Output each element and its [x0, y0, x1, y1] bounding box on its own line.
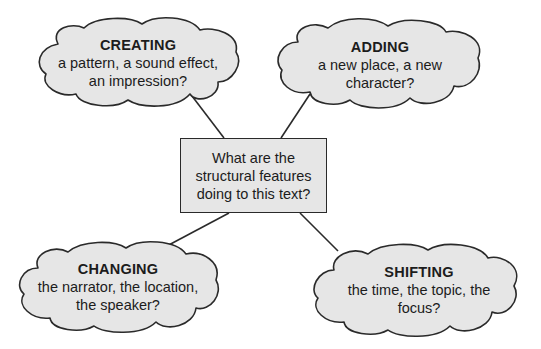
node-shifting: SHIFTING the time, the topic, the focus? — [338, 263, 500, 317]
node-adding-title: ADDING — [306, 38, 454, 56]
central-question-box: What are the structural features doing t… — [180, 138, 327, 213]
node-creating-body: a pattern, a sound effect, an impression… — [54, 54, 222, 90]
node-shifting-title: SHIFTING — [338, 263, 500, 281]
connector-shifting — [300, 213, 338, 251]
node-creating: CREATING a pattern, a sound effect, an i… — [54, 36, 222, 90]
node-changing-body: the narrator, the location, the speaker? — [36, 278, 200, 314]
node-shifting-body: the time, the topic, the focus? — [338, 281, 500, 317]
connector-changing — [165, 213, 229, 247]
connector-creating — [192, 96, 224, 138]
node-changing-title: CHANGING — [36, 260, 200, 278]
node-changing: CHANGING the narrator, the location, the… — [36, 260, 200, 314]
connector-adding — [281, 94, 310, 138]
node-creating-title: CREATING — [54, 36, 222, 54]
node-adding: ADDING a new place, a new character? — [306, 38, 454, 92]
central-question-text: What are the structural features doing t… — [189, 149, 318, 203]
node-adding-body: a new place, a new character? — [306, 56, 454, 92]
